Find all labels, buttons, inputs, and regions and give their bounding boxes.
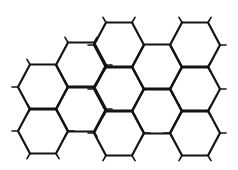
edge-stub [179, 17, 182, 22]
edge-stub [27, 59, 30, 64]
hexagon-grid-svg [0, 0, 238, 170]
edge-stub [132, 156, 135, 161]
edge-stub [27, 154, 30, 159]
hexagon-cells [18, 23, 220, 156]
edge-stub [65, 37, 68, 42]
edge-stub [208, 156, 211, 161]
hexagon-grid-diagram [0, 0, 238, 170]
boundary-stubs [12, 17, 226, 160]
hexagon-cell [170, 111, 220, 156]
edge-stub [56, 154, 59, 159]
edge-stub [132, 17, 135, 22]
hexagon-cell [170, 23, 220, 68]
hexagon-cell [170, 67, 220, 112]
edge-stub [208, 17, 211, 22]
edge-stub [103, 156, 106, 161]
edge-stub [103, 17, 106, 22]
edge-stub [179, 156, 182, 161]
